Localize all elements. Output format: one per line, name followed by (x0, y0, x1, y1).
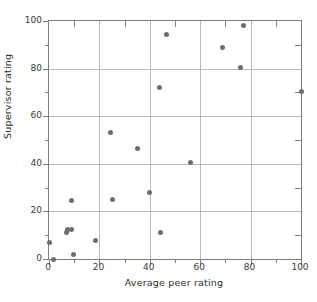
x-tick-minor (225, 259, 226, 263)
y-tick-label: 40 (31, 158, 42, 168)
data-point (220, 45, 225, 50)
data-point (158, 230, 163, 235)
gridline-vertical (150, 21, 151, 259)
x-axis-title: Average peer rating (48, 277, 300, 288)
plot-area (48, 20, 302, 260)
x-tick-minor (125, 259, 126, 263)
data-point (147, 190, 152, 195)
data-point (238, 65, 243, 70)
x-tick-label: 40 (143, 262, 154, 272)
x-tick-label: 60 (193, 262, 204, 272)
y-tick-minor (45, 140, 49, 141)
x-tick-label: 0 (45, 262, 51, 272)
x-tick-minor (74, 259, 75, 263)
y-tick-minor (45, 92, 49, 93)
data-point (299, 89, 304, 94)
gridline-vertical (251, 21, 252, 259)
data-point (51, 257, 56, 262)
data-point (108, 130, 113, 135)
x-tick-minor (276, 259, 277, 263)
y-tick-right (295, 45, 301, 46)
data-point (241, 23, 246, 28)
y-tick-label: 20 (31, 205, 42, 215)
y-tick-major (43, 259, 49, 260)
x-tick-minor (175, 259, 176, 263)
y-tick-major (43, 116, 49, 117)
data-point (157, 85, 162, 90)
y-tick-minor (45, 235, 49, 236)
y-tick-label: 100 (25, 15, 42, 25)
data-point (69, 227, 74, 232)
gridline-horizontal (49, 164, 301, 165)
y-tick-right (295, 188, 301, 189)
y-tick-minor (45, 45, 49, 46)
data-point (71, 252, 76, 257)
y-axis-title: Supervisor rating (2, 54, 13, 139)
x-tick-label: 80 (244, 262, 255, 272)
data-point (164, 32, 169, 37)
data-point (69, 198, 74, 203)
y-tick-major (43, 21, 49, 22)
data-point (47, 240, 52, 245)
y-tick-major (43, 164, 49, 165)
data-point (135, 146, 140, 151)
y-tick-minor (45, 188, 49, 189)
y-tick-right (295, 235, 301, 236)
x-tick-top (175, 21, 176, 27)
data-point (93, 238, 98, 243)
y-tick-label: 60 (31, 110, 42, 120)
y-tick-major (43, 69, 49, 70)
x-tick-top (125, 21, 126, 27)
data-point (188, 160, 193, 165)
x-tick-top (74, 21, 75, 27)
gridline-horizontal (49, 116, 301, 117)
x-tick-top (276, 21, 277, 27)
y-tick-label: 80 (31, 63, 42, 73)
gridline-horizontal (49, 69, 301, 70)
x-tick-top (225, 21, 226, 27)
y-tick-right (295, 140, 301, 141)
x-tick-label: 100 (291, 262, 308, 272)
gridline-vertical (200, 21, 201, 259)
gridline-vertical (99, 21, 100, 259)
gridline-horizontal (49, 211, 301, 212)
x-tick-label: 20 (93, 262, 104, 272)
y-tick-label: 0 (36, 253, 42, 263)
scatter-chart-figure: 020406080100 020406080100 Average peer r… (0, 0, 317, 302)
y-tick-major (43, 211, 49, 212)
data-point (110, 197, 115, 202)
